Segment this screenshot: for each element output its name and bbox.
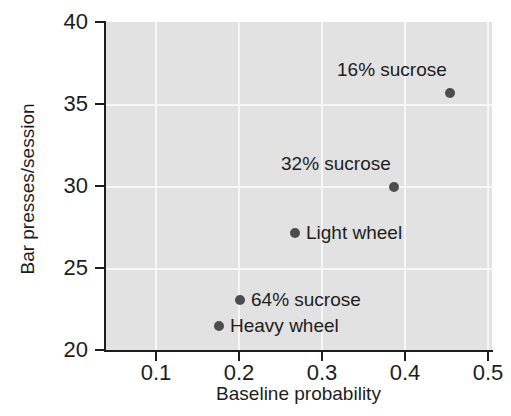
y-axis-tick-25 (95, 267, 104, 269)
y-axis-title: Bar presses/session (17, 69, 39, 309)
gridline-horizontal-25 (105, 268, 492, 270)
datapoint-heavy-wheel (214, 321, 224, 331)
y-axis-ticklabel-20: 20 (33, 339, 88, 361)
y-axis-line (104, 21, 106, 352)
datapoint-label-64-sucrose: 64% sucrose (251, 290, 361, 309)
datapoint-64-sucrose (235, 295, 245, 305)
x-axis-title: Baseline probability (105, 383, 492, 405)
datapoint-light-wheel (290, 228, 300, 238)
datapoint-32-sucrose (389, 182, 399, 192)
scatter-chart-figure: 16% sucrose 32% sucrose Light wheel 64% … (0, 0, 511, 416)
x-axis-ticklabel-0.5: 0.5 (453, 362, 511, 384)
datapoint-label-light-wheel: Light wheel (306, 223, 402, 242)
x-axis-line (104, 350, 493, 352)
y-axis-tick-30 (95, 185, 104, 187)
y-axis-tick-40 (95, 21, 104, 23)
datapoint-16-sucrose (445, 88, 455, 98)
y-axis-ticklabel-25: 25 (33, 257, 88, 279)
y-axis-ticklabel-35: 35 (33, 93, 88, 115)
y-axis-tick-20 (95, 349, 104, 351)
datapoint-label-heavy-wheel: Heavy wheel (230, 316, 339, 335)
plot-area: 16% sucrose 32% sucrose Light wheel 64% … (105, 22, 492, 350)
gridline-horizontal-35 (105, 104, 492, 106)
x-axis-ticklabel-0.3: 0.3 (287, 362, 357, 384)
gridline-horizontal-30 (105, 186, 492, 188)
x-axis-ticklabel-0.4: 0.4 (370, 362, 440, 384)
x-axis-ticklabel-0.2: 0.2 (204, 362, 274, 384)
x-axis-ticklabel-0.1: 0.1 (121, 362, 191, 384)
datapoint-label-32-sucrose: 32% sucrose (281, 154, 391, 173)
y-axis-tick-35 (95, 103, 104, 105)
y-axis-ticklabel-40: 40 (33, 11, 88, 33)
datapoint-label-16-sucrose: 16% sucrose (337, 60, 447, 79)
y-axis-ticklabel-30: 30 (33, 175, 88, 197)
